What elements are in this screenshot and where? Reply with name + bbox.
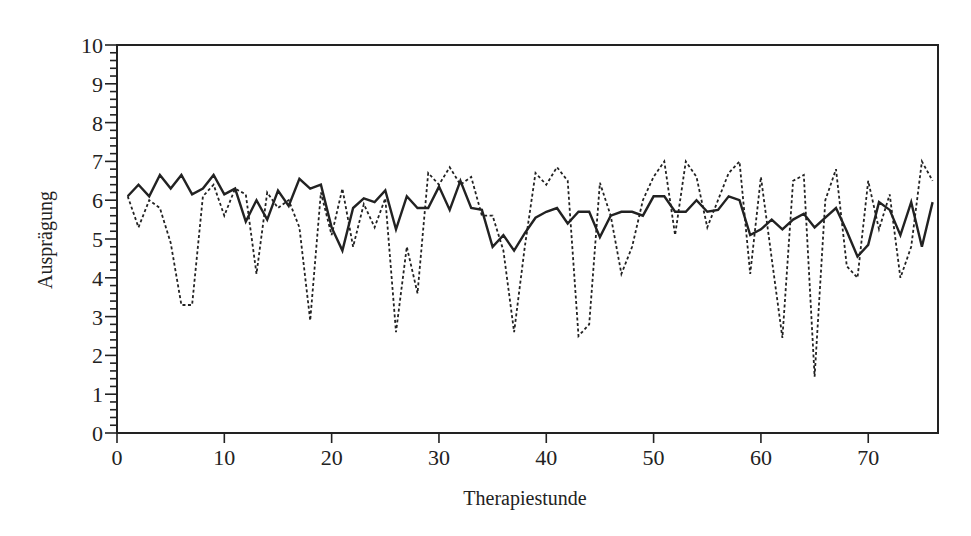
x-tick-label: 70 (857, 445, 879, 470)
x-tick-label: 20 (321, 445, 343, 470)
y-axis: 012345678910 (81, 33, 117, 446)
dashed-series-line (128, 161, 933, 376)
x-tick-label: 40 (535, 445, 557, 470)
x-axis-title: Therapiestunde (463, 487, 586, 510)
y-tick-label: 10 (81, 33, 103, 58)
y-tick-label: 4 (92, 266, 103, 291)
x-tick-label: 0 (112, 445, 123, 470)
y-tick-label: 6 (92, 188, 103, 213)
y-tick-label: 5 (92, 227, 103, 252)
x-tick-label: 30 (428, 445, 450, 470)
y-tick-label: 9 (92, 72, 103, 97)
y-tick-label: 3 (92, 305, 103, 330)
y-axis-title: Ausprägung (34, 191, 57, 289)
line-chart: 012345678910 010203040506070 Therapiestu… (0, 0, 971, 536)
y-tick-label: 8 (92, 111, 103, 136)
y-tick-label: 0 (92, 421, 103, 446)
x-tick-label: 50 (643, 445, 665, 470)
x-tick-label: 10 (213, 445, 235, 470)
series-layer (128, 161, 933, 376)
x-axis: 010203040506070 (112, 433, 880, 470)
x-tick-label: 60 (750, 445, 772, 470)
y-tick-label: 1 (92, 382, 103, 407)
y-tick-label: 7 (92, 149, 103, 174)
y-tick-label: 2 (92, 343, 103, 368)
